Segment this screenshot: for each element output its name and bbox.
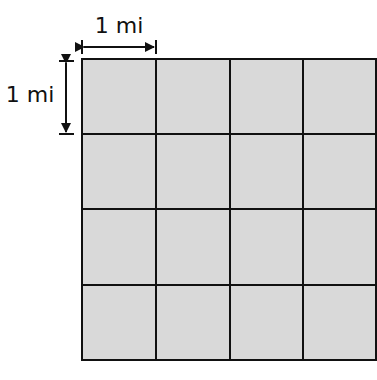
square-grid-diagram: 1 mi 1 mi [0,0,377,380]
horizontal-label: 1 mi [95,13,144,38]
vertical-label: 1 mi [6,82,55,107]
horizontal-dimension-arrow [82,40,156,54]
vertical-dimension-arrow [59,61,74,134]
